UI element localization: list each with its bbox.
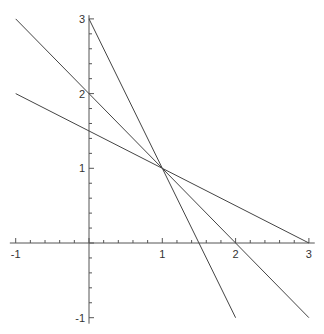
x-tick-label: -1: [11, 248, 21, 260]
x-tick-label: 1: [159, 248, 165, 260]
x-tick-label: 2: [233, 248, 239, 260]
x-tick-label: 3: [306, 248, 312, 260]
plot-line: [16, 94, 309, 243]
y-tick-label: 1: [79, 162, 85, 174]
y-tick-label: 2: [79, 88, 85, 100]
y-tick-label: 3: [79, 13, 85, 25]
y-tick-label: -1: [75, 312, 85, 324]
plot-lines: [16, 19, 309, 318]
line-plot: -1123-1123: [0, 0, 324, 334]
